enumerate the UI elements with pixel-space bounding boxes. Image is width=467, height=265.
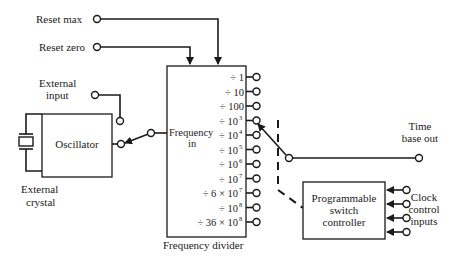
- reset-max-label: Reset max: [36, 13, 83, 25]
- divider-ratio-label: ÷ 10: [219, 203, 238, 214]
- divider-output-terminal: [253, 204, 260, 211]
- divider-output-2: ÷ 100: [220, 101, 260, 112]
- output-switch-arm: [258, 124, 286, 155]
- reset-max-terminal: [94, 16, 101, 23]
- divider-output-terminal: [253, 74, 260, 81]
- divider-ratio-label: ÷ 36 × 10: [197, 217, 238, 228]
- crystal-wire-top: [26, 114, 42, 131]
- external-input-label-1: External: [39, 77, 76, 89]
- controller-label-2: switch: [330, 204, 359, 216]
- frequency-divider-diagram: Reset max Reset zero External input Exte…: [0, 0, 467, 265]
- reset-zero-label: Reset zero: [39, 41, 86, 53]
- divider-ratio-label: ÷ 10: [225, 87, 244, 98]
- divider-output-terminal: [253, 219, 260, 226]
- frequency-in-label-1: Frequency: [169, 127, 214, 138]
- frequency-divider-block: Frequency in Frequency divider ÷ 1÷ 10÷ …: [163, 66, 260, 251]
- divider-ratio-label: ÷ 10: [219, 159, 238, 170]
- programmable-switch-controller: Programmable switch controller Clock con…: [303, 182, 440, 239]
- clock-label-1: Clock: [411, 191, 438, 203]
- output-switch-pivot: [286, 155, 293, 162]
- divider-output-10: ÷ 36 × 108: [197, 215, 260, 228]
- divider-output-terminal: [253, 88, 260, 95]
- crystal-icon: [19, 137, 33, 146]
- clock-input-3: [387, 229, 410, 236]
- reset-zero-input: Reset zero: [39, 41, 190, 64]
- time-base-label-1: Time: [409, 120, 432, 132]
- clock-input-0: [387, 187, 410, 194]
- divider-ratio-label: ÷ 10: [219, 130, 238, 141]
- time-base-label-2: base out: [402, 132, 438, 144]
- divider-output-terminal: [253, 161, 260, 168]
- divider-output-terminal: [253, 103, 260, 110]
- divider-ratio-label: ÷ 6 × 10: [203, 188, 238, 199]
- external-input-terminal: [92, 92, 99, 99]
- switch-control-link: [278, 120, 303, 208]
- controller-label-3: controller: [323, 216, 366, 228]
- clock-label-3: inputs: [411, 215, 438, 227]
- crystal-label-2: crystal: [26, 196, 55, 208]
- oscillator-label: Oscillator: [55, 138, 99, 150]
- source-switch-pivot: [148, 130, 155, 137]
- clock-input-terminal: [403, 187, 410, 194]
- divider-ratio-label: ÷ 100: [220, 101, 244, 112]
- frequency-in-label-2: in: [188, 138, 197, 149]
- divider-ratio-label: ÷ 10: [219, 116, 238, 127]
- divider-output-terminal: [253, 132, 260, 139]
- clock-input-terminal: [403, 229, 410, 236]
- source-select-switch: [125, 130, 167, 144]
- controller-label-1: Programmable: [312, 192, 377, 204]
- frequency-divider-caption: Frequency divider: [163, 239, 244, 251]
- reset-zero-terminal: [94, 44, 101, 51]
- divider-ratio-exponent: 5: [239, 143, 242, 150]
- divider-output-8: ÷ 6 × 107: [203, 186, 260, 199]
- divider-ratio-label: ÷ 10: [219, 174, 238, 185]
- divider-ratio-exponent: 3: [239, 114, 242, 121]
- clock-input-2: [387, 215, 410, 222]
- reset-max-wire: [101, 19, 219, 64]
- reset-zero-wire: [101, 47, 191, 64]
- divider-ratio-exponent: 8: [239, 215, 242, 222]
- time-base-out-terminal: [416, 155, 423, 162]
- output-select-switch: Time base out: [258, 120, 438, 162]
- crystal-label-1: External: [21, 183, 58, 195]
- divider-ratio-label: ÷ 1: [230, 72, 244, 83]
- clock-label-2: control: [408, 203, 439, 215]
- oscillator-output-terminal: [118, 141, 125, 148]
- divider-output-terminal: [253, 146, 260, 153]
- divider-ratio-label: ÷ 10: [219, 145, 238, 156]
- crystal-wire-bottom: [26, 153, 42, 171]
- divider-output-terminal: [253, 175, 260, 182]
- divider-ratio-exponent: 8: [239, 201, 242, 208]
- external-input-switch-contact: [117, 118, 124, 125]
- clock-control-inputs: [387, 187, 410, 236]
- clock-input-1: [387, 201, 410, 208]
- external-input-label-2: input: [46, 89, 69, 101]
- clock-input-terminal: [403, 215, 410, 222]
- divider-output-terminal: [253, 190, 260, 197]
- divider-output-1: ÷ 10: [225, 87, 260, 98]
- divider-output-terminal: [253, 117, 260, 124]
- oscillator-block: Oscillator: [42, 114, 125, 177]
